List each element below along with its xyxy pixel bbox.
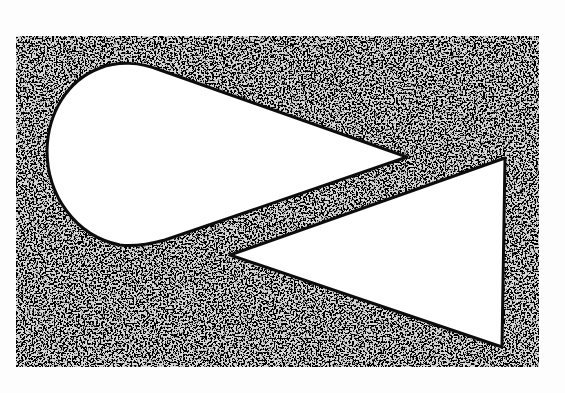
stippled-figure <box>0 0 565 393</box>
